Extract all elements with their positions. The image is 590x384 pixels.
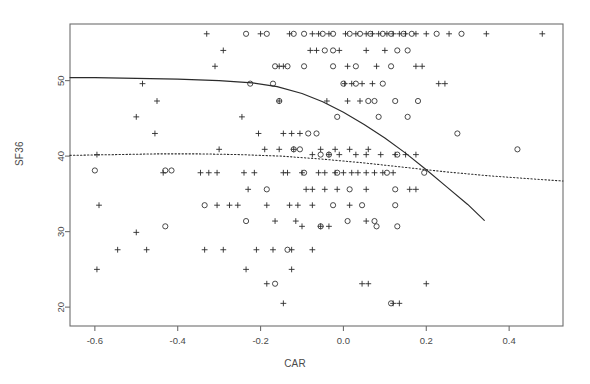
data-point-plus (345, 63, 351, 69)
data-point-plus (227, 202, 233, 208)
data-point-plus (390, 170, 396, 176)
data-point-plus (256, 131, 262, 137)
data-point-circle (297, 147, 302, 152)
data-point-plus (318, 146, 324, 152)
data-point-circle (455, 131, 460, 136)
data-point-plus (407, 186, 413, 192)
data-point-plus (359, 281, 365, 287)
data-point-plus (204, 31, 210, 37)
data-point-plus (272, 218, 278, 224)
data-point-plus (243, 266, 249, 272)
plot-canvas: -0.6-0.4-0.20.00.20.420304050 (0, 0, 590, 384)
data-point-circle (359, 203, 364, 208)
data-point-circle (372, 98, 377, 103)
data-point-circle (301, 64, 306, 69)
data-point-circle (243, 31, 248, 36)
data-point-plus (436, 81, 442, 87)
data-point-circle (393, 187, 398, 192)
data-point-circle (515, 147, 520, 152)
data-point-plus (326, 223, 332, 229)
data-point-plus (370, 81, 376, 87)
data-point-plus (264, 281, 270, 287)
x-tick-label: 0.2 (420, 335, 433, 346)
data-point-circle (405, 48, 410, 53)
data-point-plus (363, 152, 369, 158)
data-point-circle (422, 170, 427, 175)
data-point-plus (280, 131, 286, 137)
data-point-plus (355, 170, 361, 176)
data-point-plus (357, 98, 363, 104)
data-point-plus (359, 81, 365, 87)
data-point-plus (365, 146, 371, 152)
data-point-plus (285, 170, 291, 176)
data-point-circle (92, 168, 97, 173)
data-point-plus (309, 247, 315, 253)
data-point-plus (96, 202, 102, 208)
data-point-plus (336, 152, 342, 158)
data-point-circle (330, 64, 335, 69)
data-point-plus (214, 202, 220, 208)
data-point-plus (365, 281, 371, 287)
data-point-plus (154, 98, 160, 104)
data-point-plus (307, 48, 313, 54)
data-point-plus (202, 247, 208, 253)
data-point-plus (206, 170, 212, 176)
data-point-plus (241, 170, 247, 176)
data-point-circle (264, 31, 269, 36)
series-plus-markers (94, 31, 545, 306)
data-point-plus (115, 247, 121, 253)
data-point-plus (133, 229, 139, 235)
data-point-plus (270, 247, 276, 253)
data-point-plus (347, 202, 353, 208)
data-point-plus (314, 48, 320, 54)
y-tick-label: 40 (55, 151, 66, 162)
data-point-circle (163, 224, 168, 229)
x-tick-label: -0.2 (252, 335, 268, 346)
x-tick-label: -0.4 (170, 335, 186, 346)
data-point-circle (345, 218, 350, 223)
data-point-circle (272, 281, 277, 286)
data-point-circle (388, 64, 393, 69)
plot-frame (70, 24, 563, 326)
data-point-plus (446, 31, 452, 37)
data-point-circle (330, 48, 335, 53)
y-tick-label: 50 (55, 75, 66, 86)
data-point-plus (413, 63, 419, 69)
data-point-plus (220, 48, 226, 54)
data-point-plus (423, 281, 429, 287)
data-point-circle (306, 131, 311, 136)
data-point-plus (382, 48, 388, 54)
data-point-plus (293, 218, 299, 224)
x-tick-label: -0.6 (87, 335, 103, 346)
data-point-plus (309, 152, 315, 158)
data-point-plus (374, 63, 380, 69)
data-point-plus (251, 170, 257, 176)
x-tick-label: 0.4 (503, 335, 516, 346)
data-point-circle (318, 152, 323, 157)
data-point-circle (459, 31, 464, 36)
data-point-circle (393, 203, 398, 208)
data-point-plus (276, 146, 282, 152)
data-point-plus (140, 81, 146, 87)
data-point-plus (309, 186, 315, 192)
data-point-plus (235, 202, 241, 208)
data-point-plus (363, 170, 369, 176)
data-point-plus (287, 202, 293, 208)
data-point-plus (341, 170, 347, 176)
data-point-plus (423, 31, 429, 37)
data-point-circle (372, 218, 377, 223)
data-point-circle (374, 224, 379, 229)
data-point-plus (245, 186, 251, 192)
data-point-circle (243, 218, 248, 223)
data-point-plus (144, 247, 150, 253)
x-tick-label: 0.0 (337, 335, 350, 346)
fit-curve-dotted (70, 154, 563, 181)
data-point-plus (254, 247, 260, 253)
data-point-plus (239, 114, 245, 120)
data-point-circle (202, 203, 207, 208)
y-tick-label: 30 (55, 226, 66, 237)
data-point-plus (363, 218, 369, 224)
data-point-plus (212, 63, 218, 69)
data-point-circle (395, 224, 400, 229)
data-point-circle (393, 98, 398, 103)
